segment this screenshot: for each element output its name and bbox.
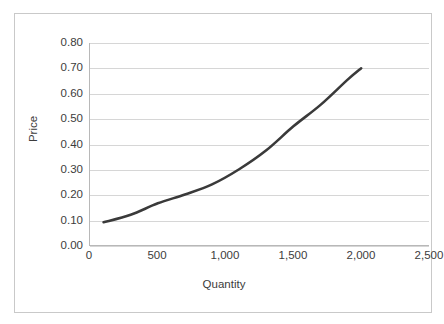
supply-curve-line <box>104 68 362 222</box>
gridline <box>90 246 429 247</box>
x-axis-title: Quantity <box>15 278 433 290</box>
y-axis-title: Price <box>27 99 39 159</box>
plot-area <box>89 43 429 246</box>
y-axis-tick-label: 0.70 <box>27 62 83 74</box>
x-axis-tick-label: 500 <box>127 250 187 262</box>
supply-curve-svg <box>90 43 429 245</box>
x-axis-tick-label: 2,500 <box>399 250 444 262</box>
y-axis-tick-label: 0.80 <box>27 37 83 49</box>
y-axis-tick-label: 0.10 <box>27 215 83 227</box>
y-axis-tick-label: 0.40 <box>27 139 83 151</box>
x-axis-tick-label: 0 <box>59 250 119 262</box>
x-axis-tick-label: 2,000 <box>331 250 391 262</box>
y-axis-tick-label: 0.30 <box>27 164 83 176</box>
y-axis-tick-label: 0.60 <box>27 88 83 100</box>
chart-figure: Price 0.800.700.600.500.400.300.200.100.… <box>14 13 432 313</box>
y-axis-tick-label: 0.50 <box>27 113 83 125</box>
x-axis-tick-label: 1,000 <box>195 250 255 262</box>
y-axis-tick-label: 0.20 <box>27 189 83 201</box>
x-axis-tick-label: 1,500 <box>263 250 323 262</box>
